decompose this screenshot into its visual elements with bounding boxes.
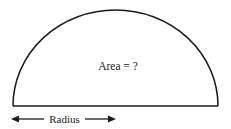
semicircle-area-figure: Area = ? Radius xyxy=(0,0,231,129)
radius-label: Radius xyxy=(49,113,80,125)
semicircle-arc xyxy=(13,10,218,106)
area-label: Area = ? xyxy=(98,60,138,72)
radius-arrowhead-left xyxy=(11,116,19,123)
figure-canvas: Area = ? Radius xyxy=(0,0,231,129)
radius-arrowhead-right xyxy=(108,116,116,123)
